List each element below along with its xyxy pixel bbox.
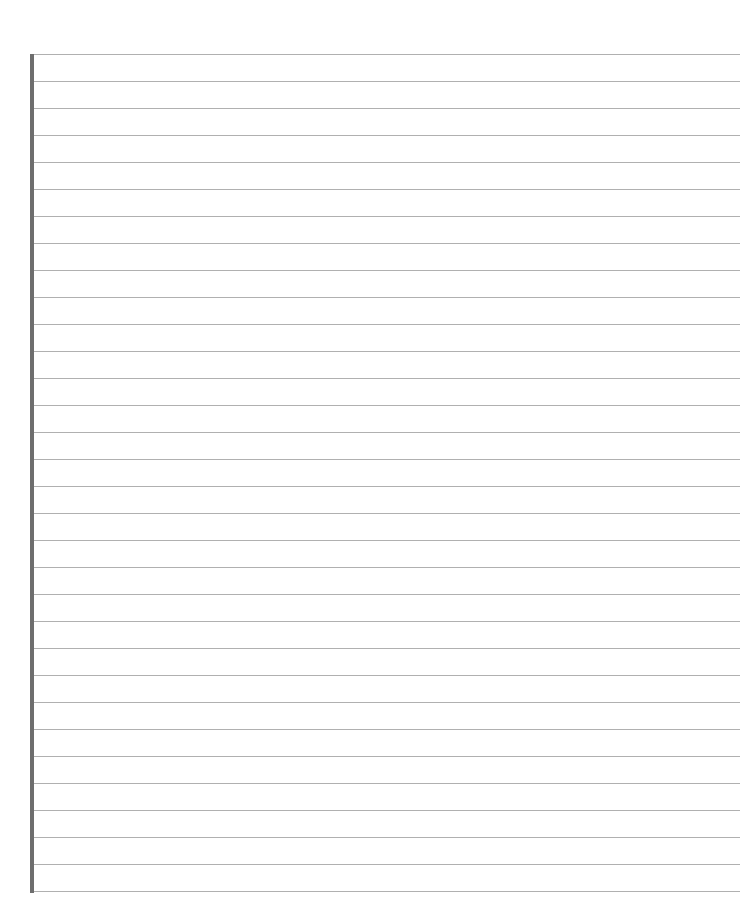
lined-paper-sheet <box>0 0 743 920</box>
rule-line <box>34 783 740 784</box>
rule-line <box>34 108 740 109</box>
rule-line <box>34 513 740 514</box>
rule-line <box>34 459 740 460</box>
rule-line <box>34 270 740 271</box>
rule-line <box>34 378 740 379</box>
rule-line <box>34 567 740 568</box>
rule-line <box>34 675 740 676</box>
rule-line <box>34 594 740 595</box>
rule-line <box>34 216 740 217</box>
rule-line <box>34 162 740 163</box>
rule-line <box>34 864 740 865</box>
rule-line <box>34 891 740 892</box>
rule-line <box>34 351 740 352</box>
rule-line <box>34 621 740 622</box>
rule-line <box>34 432 740 433</box>
rule-line <box>34 135 740 136</box>
rule-line <box>34 486 740 487</box>
rule-line <box>34 297 740 298</box>
left-margin-bar <box>30 54 34 893</box>
rule-line <box>34 648 740 649</box>
rule-line <box>34 756 740 757</box>
rule-line <box>34 729 740 730</box>
rule-line <box>34 405 740 406</box>
rule-line <box>34 540 740 541</box>
rule-line <box>34 702 740 703</box>
rule-line <box>34 837 740 838</box>
rule-line <box>34 324 740 325</box>
rule-line <box>34 54 740 55</box>
rule-line <box>34 81 740 82</box>
rule-line <box>34 189 740 190</box>
rule-line <box>34 810 740 811</box>
rule-line <box>34 243 740 244</box>
